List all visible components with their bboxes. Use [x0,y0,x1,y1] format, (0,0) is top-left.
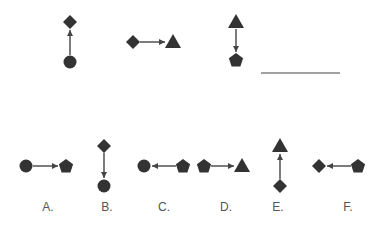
option-label-b: B. [101,200,112,214]
circle-icon [98,180,111,193]
arrowhead-icon [228,163,234,169]
diamond-icon [273,179,287,193]
pentagon-icon [176,159,190,173]
stem-figure-2 [126,34,181,49]
circle-icon [138,160,151,173]
arrowhead-icon [67,30,73,36]
arrowhead-icon [327,163,333,169]
arrowhead-icon [101,172,107,178]
puzzle-stem [63,14,244,69]
option-f[interactable]: F. [312,159,365,214]
arrowhead-icon [152,163,158,169]
answer-options: A.B.C.D.E.F. [20,138,366,214]
diamond-icon [97,139,111,153]
stem-figure-1 [63,15,77,69]
diamond-icon [312,159,326,173]
option-label-f: F. [343,200,352,214]
diagram-canvas: A.B.C.D.E.F. [0,0,387,226]
diamond-icon [126,35,140,49]
arrowhead-icon [277,154,283,160]
triangle-icon [228,14,244,28]
pentagon-icon [197,159,211,173]
option-label-e: E. [272,200,283,214]
option-b[interactable]: B. [97,139,113,214]
arrowhead-icon [159,39,165,45]
triangle-icon [234,158,250,172]
option-c[interactable]: C. [138,159,191,214]
pentagon-icon [351,159,365,173]
diamond-icon [63,15,77,29]
option-label-a: A. [42,200,53,214]
triangle-icon [272,138,288,152]
circle-icon [64,56,77,69]
circle-icon [20,160,33,173]
pentagon-icon [229,53,243,67]
option-label-d: D. [220,200,232,214]
stem-figure-3 [228,14,244,67]
arrowhead-icon [233,46,239,52]
option-e[interactable]: E. [272,138,288,214]
pentagon-icon [59,159,73,173]
option-label-c: C. [158,200,170,214]
triangle-icon [165,34,181,48]
arrowhead-icon [52,163,58,169]
option-a[interactable]: A. [20,159,74,214]
option-d[interactable]: D. [197,158,250,214]
